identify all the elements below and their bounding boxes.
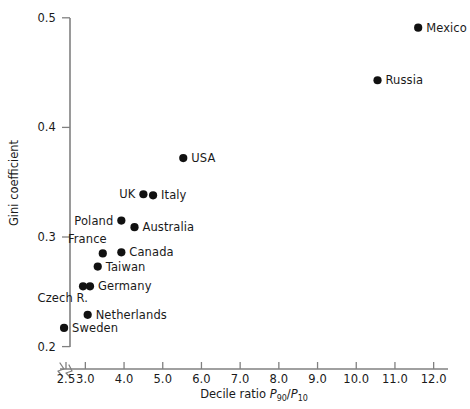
data-point: Italy	[149, 188, 187, 202]
data-point: Australia	[130, 220, 194, 234]
x-axis-tick-labels: 2.53.04.05.06.07.08.09.010.011.012.0	[57, 372, 447, 386]
data-point-label: France	[68, 232, 107, 246]
data-point: USA	[179, 151, 215, 165]
data-point-marker	[179, 154, 187, 162]
data-point-label: Sweden	[72, 321, 118, 335]
x-tick-label: 8.0	[270, 372, 289, 386]
data-point-marker	[414, 24, 422, 32]
data-point-marker	[60, 324, 68, 332]
x-axis-title-prefix: Decile ratio	[200, 387, 270, 401]
x-axis-title-denominator-sub: 10	[298, 394, 308, 403]
data-point-label: Germany	[98, 279, 152, 293]
data-point: Canada	[117, 245, 173, 259]
data-point-label: Czech R.	[38, 291, 88, 305]
data-point-marker	[373, 76, 381, 84]
data-point-label: Taiwan	[105, 260, 146, 274]
data-point-label: Canada	[129, 245, 173, 259]
scatter-plot-figure: 0.20.30.40.5 2.53.04.05.06.07.08.09.010.…	[0, 0, 470, 409]
data-point-marker	[84, 311, 92, 319]
data-point-label: Mexico	[426, 21, 467, 35]
data-point: Sweden	[60, 321, 118, 335]
x-tick-label: 3.0	[76, 372, 95, 386]
x-axis-title-numerator-sub: 90	[277, 394, 287, 403]
data-point-label: Poland	[74, 214, 113, 228]
data-point-marker	[130, 223, 138, 231]
x-tick-label: 12.0	[421, 372, 447, 386]
data-point-marker	[94, 262, 102, 270]
data-point-marker	[149, 191, 157, 199]
data-point-label: USA	[191, 151, 215, 165]
data-point-marker	[99, 249, 107, 257]
data-point-label: Australia	[142, 220, 194, 234]
data-point: Poland	[74, 214, 125, 228]
x-tick-label: 5.0	[153, 372, 172, 386]
data-point: Netherlands	[84, 308, 167, 322]
y-axis-title: Gini coefficient	[7, 139, 21, 226]
plot-canvas: 0.20.30.40.5 2.53.04.05.06.07.08.09.010.…	[0, 0, 470, 409]
data-point: Taiwan	[94, 260, 146, 274]
data-point: UK	[119, 187, 147, 201]
data-point-label: Russia	[386, 73, 424, 87]
x-tick-label: 4.0	[115, 372, 134, 386]
data-points-layer: MexicoRussiaUSAUKItalyPolandAustraliaFra…	[38, 21, 467, 335]
y-tick-label: 0.2	[37, 340, 56, 354]
data-point-label: Italy	[161, 188, 187, 202]
x-tick-label: 7.0	[231, 372, 250, 386]
data-point-marker	[117, 216, 125, 224]
data-point-marker	[79, 282, 87, 290]
x-tick-label: 6.0	[192, 372, 211, 386]
y-tick-label: 0.5	[37, 11, 56, 25]
data-point-marker	[117, 248, 125, 256]
x-tick-label: 9.0	[308, 372, 327, 386]
data-point: France	[68, 232, 107, 257]
x-axis-title: Decile ratio P90/P10	[200, 387, 308, 403]
y-tick-label: 0.3	[37, 230, 56, 244]
data-point: Russia	[373, 73, 423, 87]
data-point: Czech R.	[38, 282, 88, 305]
data-point-label: Netherlands	[96, 308, 167, 322]
data-point: Germany	[86, 279, 152, 293]
x-tick-label: 11.0	[382, 372, 408, 386]
y-tick-label: 0.4	[37, 120, 56, 134]
x-axis-ticks	[66, 362, 434, 369]
x-tick-label: 10.0	[343, 372, 369, 386]
data-point-label: UK	[119, 187, 136, 201]
data-point: Mexico	[414, 21, 467, 35]
data-point-marker	[139, 190, 147, 198]
x-tick-label: 2.5	[57, 372, 76, 386]
